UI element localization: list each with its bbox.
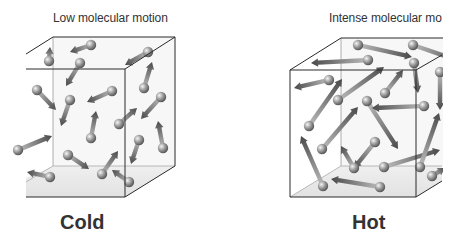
molecule-ball-icon [63, 150, 73, 160]
molecule-ball-icon [380, 88, 390, 98]
cold-caption: Low molecular motion [53, 11, 168, 25]
molecule-ball-icon [75, 58, 85, 68]
hot-label: Hot [352, 211, 385, 234]
hot-caption: Intense molecular mo [329, 11, 442, 25]
molecule-ball-icon [134, 135, 144, 145]
molecule-ball-icon [86, 40, 96, 50]
molecule [32, 85, 56, 110]
molecule-ball-icon [375, 182, 385, 192]
cold-cube [13, 37, 175, 197]
molecule-ball-icon [349, 163, 359, 173]
velocity-arrow-icon [300, 136, 324, 184]
molecule-ball-icon [409, 58, 419, 68]
molecule-ball-icon [65, 95, 75, 105]
molecule [294, 75, 334, 91]
molecule-ball-icon [158, 143, 168, 153]
molecule-ball-icon [114, 119, 124, 129]
molecular-motion-diagram [0, 0, 462, 240]
molecule-ball-icon [86, 133, 96, 143]
molecule-ball-icon [362, 96, 372, 106]
molecule-ball-icon [408, 40, 418, 50]
molecule-ball-icon [379, 162, 389, 172]
molecule-ball-icon [97, 169, 107, 179]
molecule-ball-icon [156, 92, 166, 102]
molecule-ball-icon [324, 75, 334, 85]
molecule-ball-icon [107, 86, 117, 96]
hot-cube [290, 38, 462, 197]
molecule-ball-icon [139, 83, 149, 93]
molecule [13, 135, 52, 155]
molecule-ball-icon [317, 144, 327, 154]
molecule [304, 79, 342, 131]
molecule-ball-icon [44, 56, 54, 66]
molecule-ball-icon [419, 101, 429, 111]
molecule-ball-icon [32, 85, 42, 95]
molecule-ball-icon [363, 55, 373, 65]
molecule-ball-icon [333, 95, 343, 105]
molecule-ball-icon [370, 137, 380, 147]
velocity-arrow-icon [20, 135, 52, 151]
molecule-ball-icon [13, 145, 23, 155]
molecule-ball-icon [427, 171, 437, 181]
molecule-ball-icon [304, 121, 314, 131]
molecule-ball-icon [45, 172, 55, 182]
molecule-ball-icon [318, 181, 328, 191]
right-crop-mask [443, 0, 462, 240]
molecule-ball-icon [353, 40, 363, 50]
cold-label: Cold [60, 211, 104, 234]
velocity-arrow-icon [294, 79, 327, 91]
